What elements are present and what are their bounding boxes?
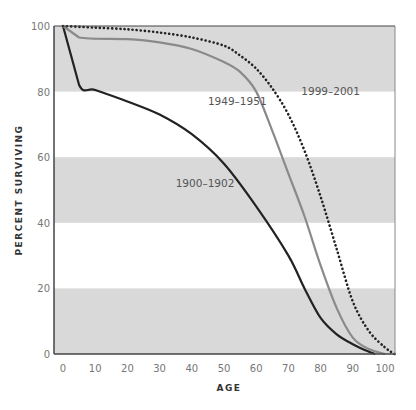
y-tick-labels: 020406080100 [31,21,50,360]
y-axis-title: PERCENT SURVIVING [14,125,24,256]
y-tick-label: 20 [37,283,50,294]
series-label: 1999–2001 [301,85,360,97]
grid-bands [54,26,395,354]
y-tick-label: 0 [44,349,50,360]
x-tick-label: 100 [375,363,394,374]
x-tick-label: 70 [282,363,295,374]
x-tick-label: 30 [153,363,166,374]
y-tick-label: 100 [31,21,50,32]
y-tick-label: 60 [37,152,50,163]
y-tick-label: 80 [37,87,50,98]
x-tick-label: 20 [121,363,134,374]
x-axis-title: AGE [216,383,241,393]
x-tick-label: 90 [346,363,359,374]
x-tick-label: 10 [89,363,102,374]
x-tick-label: 50 [218,363,231,374]
y-tick-label: 40 [37,218,50,229]
x-tick-label: 80 [314,363,327,374]
grid-band [54,157,395,223]
x-tick-label: 0 [60,363,66,374]
x-tick-labels: 0102030405060708090100 [60,363,395,374]
x-tick-label: 60 [250,363,263,374]
series-label: 1949–1951 [208,95,267,107]
survival-chart: 020406080100 0102030405060708090100 1999… [0,0,416,410]
series-label: 1900–1902 [176,177,235,189]
grid-band [54,26,395,92]
x-tick-label: 40 [185,363,198,374]
